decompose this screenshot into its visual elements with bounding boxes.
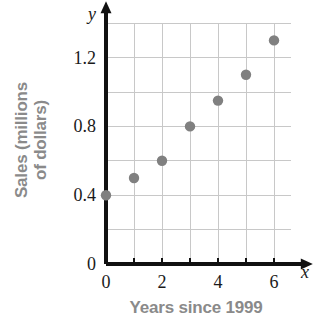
data-point (157, 156, 167, 166)
x-axis-tick-label: 4 (214, 272, 223, 293)
data-point (129, 173, 139, 183)
gridlines (106, 23, 291, 264)
data-point (241, 70, 251, 80)
x-axis-tick-label: 2 (158, 272, 167, 293)
x-axis-variable-label: x (301, 262, 309, 283)
y-axis-tick-label: 0.4 (74, 185, 97, 206)
y-axis-arrowhead (101, 1, 112, 13)
x-axis-tick-label: 6 (270, 272, 279, 293)
y-axis-tick-label: 0.8 (74, 116, 97, 137)
scatter-plot-figure: Sales (millions of dollars) Years since … (0, 0, 319, 327)
y-axis-variable-label: y (88, 4, 96, 25)
y-axis-tick-label: 0 (87, 254, 96, 275)
x-axis-tick-label: 0 (102, 272, 111, 293)
data-point (213, 95, 223, 105)
data-point (269, 35, 279, 45)
data-point (185, 121, 195, 131)
y-axis-tick-label: 1.2 (74, 47, 97, 68)
data-point (101, 190, 111, 200)
